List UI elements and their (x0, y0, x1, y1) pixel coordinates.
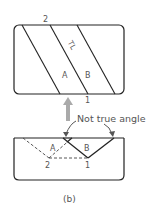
not-true-angle-label: Not true angle (77, 113, 146, 124)
top-point-1-label: 1 (85, 96, 90, 105)
top-face-a-label: A (62, 71, 68, 80)
top-point-2-label: 2 (43, 15, 48, 24)
bottom-face-b-label: B (84, 144, 90, 153)
annotation-arrowhead-right-icon (109, 131, 115, 137)
true-length-label: TL (65, 38, 78, 52)
projection-arrow-icon (63, 97, 73, 121)
bottom-view-outline (14, 138, 124, 180)
bottom-face-a-label: A (50, 144, 56, 153)
hidden-line-1 (23, 138, 49, 158)
diagram-canvas: 2 TL A B 1 Not true angle A B 2 1 (b) (0, 0, 161, 216)
top-face-b-label: B (85, 71, 91, 80)
bottom-point-1-label: 1 (85, 161, 90, 170)
groove-line-visible-2 (88, 138, 114, 158)
figure-caption: (b) (63, 194, 76, 204)
top-edge-line-1 (22, 25, 60, 94)
annotation-arrowhead-left-icon (63, 132, 69, 137)
bottom-point-2-label: 2 (45, 161, 50, 170)
